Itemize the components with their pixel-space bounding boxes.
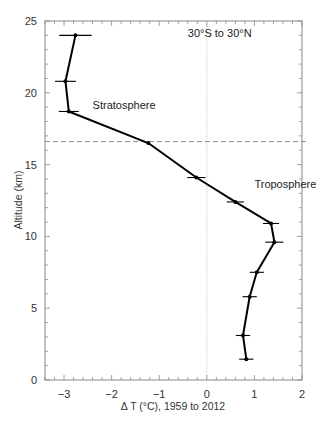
temperature-profile-line [65,35,274,359]
data-point [67,109,71,113]
x-tick-label: −1 [153,388,166,400]
x-axis-title: Δ T (°C), 1959 to 2012 [121,400,226,412]
y-tick-label: 0 [31,374,37,386]
x-tick-label: 1 [251,388,257,400]
y-tick-label: 25 [25,15,37,27]
axis-ticks [45,21,302,380]
chart-annotation: Stratosphere [93,99,156,111]
data-point [146,141,150,145]
y-tick-label: 20 [25,87,37,99]
x-tick-labels: −3−2−1012 [58,388,305,400]
data-point [73,33,77,37]
y-tick-labels: 0510152025 [25,15,37,386]
y-tick-label: 10 [25,230,37,242]
temperature-altitude-chart: −3−2−1012 0510152025 30°S to 30°NStratos… [0,0,319,423]
x-tick-label: 2 [299,388,305,400]
chart-annotation: Troposphere [254,178,316,190]
x-tick-label: −3 [58,388,71,400]
data-point [63,79,67,83]
data-point [241,333,245,337]
data-point [248,295,252,299]
y-axis-title: Altitude (km) [12,171,24,230]
x-tick-label: −2 [105,388,118,400]
data-point [255,270,259,274]
data-point [233,200,237,204]
x-tick-label: 0 [204,388,210,400]
error-bars [55,35,283,359]
data-point [269,221,273,225]
chart-annotation: 30°S to 30°N [188,27,252,39]
plot-frame [45,21,302,380]
y-tick-label: 15 [25,159,37,171]
data-point [244,357,248,361]
data-point [272,240,276,244]
data-points [63,33,276,361]
data-point [194,176,198,180]
annotations: 30°S to 30°NStratosphereTroposphere [93,27,317,190]
y-tick-label: 5 [31,302,37,314]
